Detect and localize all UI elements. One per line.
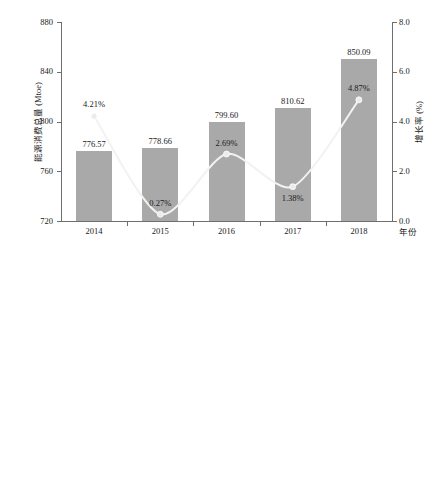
growth-rate-label-2018: 4.87%	[329, 84, 389, 93]
growth-rate-marker-2018[interactable]	[356, 97, 362, 103]
growth-rate-label-2014: 4.21%	[64, 100, 124, 109]
chart-energy-intensity: 0.1300.1320.1340.1360.1380.140-4.0-2.00.…	[0, 248, 438, 496]
growth-rate-label-2016: 2.69%	[197, 139, 257, 148]
growth-rate-marker-2014[interactable]	[91, 113, 97, 119]
growth-rate-label-2015: 0.27%	[130, 199, 190, 208]
growth-rate-marker-2017[interactable]	[290, 184, 296, 190]
growth-rate-marker-2015[interactable]	[157, 211, 163, 217]
growth-rate-marker-2016[interactable]	[224, 151, 230, 157]
growth-rate-line-layer	[0, 248, 438, 496]
growth-rate-label-2017: 1.38%	[263, 194, 323, 203]
figure-root: 7207608008408800.02.04.06.08.02014201520…	[0, 0, 438, 496]
growth-rate-line-layer	[0, 0, 438, 248]
chart-energy-consumption: 7207608008408800.02.04.06.08.02014201520…	[0, 0, 438, 248]
